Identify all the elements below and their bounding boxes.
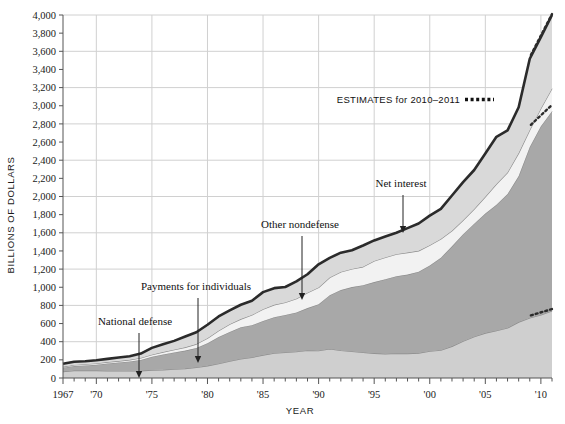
- y-axis-tick-label: 600: [40, 318, 56, 329]
- y-axis-tick-label: 3,800: [32, 28, 56, 39]
- annotation-label-net-interest: Net interest: [375, 177, 426, 189]
- x-axis-tick-label: '90: [312, 389, 324, 400]
- annotation-label-payments-for-individuals: Payments for individuals: [141, 280, 251, 292]
- x-axis-tick-label: '70: [90, 389, 102, 400]
- chart-figure: 02004006008001,0001,2001,4001,6001,8002,…: [0, 0, 565, 424]
- x-axis-tick-label: '75: [146, 389, 158, 400]
- y-axis-tick-label: 1,000: [32, 282, 56, 293]
- y-axis-tick-label: 1,600: [32, 227, 56, 238]
- x-axis-tick-label: '85: [257, 389, 269, 400]
- y-axis-tick-label: 2,000: [32, 191, 56, 202]
- x-axis-tick-labels: 1967'70'75'80'85'90'95'00'05'10: [53, 389, 548, 400]
- x-axis-tick-label: '00: [424, 389, 436, 400]
- y-axis-title: BILLIONS OF DOLLARS: [5, 157, 16, 274]
- y-axis-tick-label: 2,200: [32, 173, 56, 184]
- y-axis-tick-label: 3,000: [32, 100, 56, 111]
- area-chart-svg: 02004006008001,0001,2001,4001,6001,8002,…: [0, 0, 565, 424]
- y-axis-tick-label: 800: [40, 300, 56, 311]
- x-axis-tick-label: '95: [368, 389, 380, 400]
- area-band-payments-for-individuals: [63, 111, 552, 371]
- x-axis-tick-label: 1967: [53, 389, 74, 400]
- annotation-label-national-defense: National defense: [98, 315, 172, 327]
- y-axis-tick-label: 2,400: [32, 155, 56, 166]
- y-axis-tick-labels: 02004006008001,0001,2001,4001,6001,8002,…: [32, 10, 56, 384]
- x-axis-tick-label: '05: [479, 389, 491, 400]
- y-axis-tick-label: 1,800: [32, 209, 56, 220]
- y-axis-tick-label: 1,400: [32, 246, 56, 257]
- y-axis-tick-label: 3,400: [32, 64, 56, 75]
- y-axis-tick-label: 1,200: [32, 264, 56, 275]
- y-axis-tick-label: 2,800: [32, 119, 56, 130]
- y-axis-tick-label: 3,600: [32, 46, 56, 57]
- x-axis-title: YEAR: [286, 405, 314, 416]
- y-axis-tick-label: 200: [40, 354, 56, 365]
- annotation-label-other-nondefense: Other nondefense: [261, 218, 339, 230]
- x-axis-tick-label: '10: [535, 389, 547, 400]
- y-axis-tick-label: 4,000: [32, 10, 56, 21]
- estimates-note: ESTIMATES for 2010–2011: [337, 94, 460, 105]
- y-axis-tick-label: 400: [40, 336, 56, 347]
- y-axis-tick-label: 3,200: [32, 82, 56, 93]
- y-axis-tick-label: 0: [51, 373, 56, 384]
- y-axis-tick-label: 2,600: [32, 137, 56, 148]
- x-axis-tick-label: '80: [201, 389, 213, 400]
